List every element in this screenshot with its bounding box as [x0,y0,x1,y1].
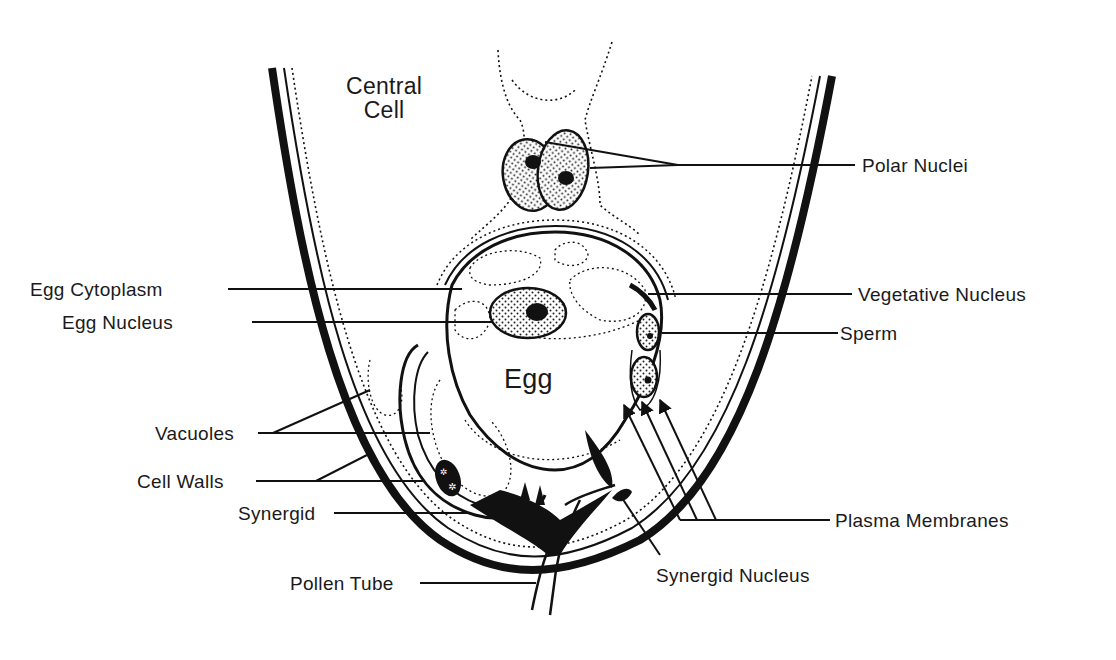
label-pollen-tube: Pollen Tube [290,574,394,593]
central-cell-label-line2: Cell [346,98,422,122]
label-vacuoles: Vacuoles [155,424,234,443]
egg-label: Egg [504,366,553,393]
label-egg-nucleus: Egg Nucleus [62,313,173,332]
central-cell-label-line1: Central [346,74,422,98]
label-sperm: Sperm [840,324,897,343]
polar-nuclei-shape [497,127,593,215]
label-vegetative-nucleus: Vegetative Nucleus [858,285,1026,304]
label-polar-nuclei: Polar Nuclei [862,156,968,175]
label-egg-cytoplasm: Egg Cytoplasm [30,280,163,299]
label-synergid: Synergid [238,504,315,523]
embryo-sac-diagram: ✲ ✲ [0,0,1116,660]
label-cell-walls: Cell Walls [137,472,224,491]
label-plasma-membranes: Plasma Membranes [835,511,1009,530]
svg-text:✲: ✲ [440,467,448,477]
svg-text:✲: ✲ [448,481,456,492]
central-cell-label: Central Cell [346,74,422,122]
label-synergid-nucleus: Synergid Nucleus [656,566,810,585]
